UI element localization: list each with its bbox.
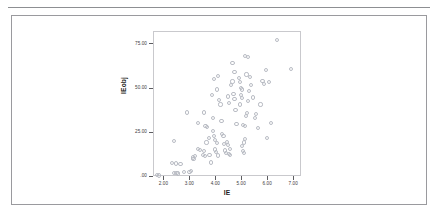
- data-point: [191, 157, 195, 161]
- data-point: [178, 162, 182, 166]
- x-axis-tick: [293, 176, 294, 180]
- data-point: [230, 79, 234, 83]
- data-point: [267, 80, 271, 84]
- data-point: [243, 137, 247, 141]
- x-axis-title: IE: [153, 189, 301, 196]
- data-point: [238, 102, 242, 106]
- data-point: [189, 169, 193, 173]
- data-point: [216, 74, 220, 78]
- data-point: [238, 80, 242, 84]
- data-point: [207, 153, 211, 157]
- data-point: [232, 97, 236, 101]
- data-points-layer: [154, 32, 300, 175]
- data-point: [215, 141, 219, 145]
- y-axis-title: IEobj: [120, 77, 127, 94]
- data-point: [242, 151, 246, 155]
- data-point: [228, 153, 232, 157]
- data-point: [249, 83, 253, 87]
- y-axis-tick: [149, 176, 153, 177]
- data-point: [230, 61, 234, 65]
- data-point: [218, 102, 222, 106]
- data-point: [172, 139, 176, 143]
- x-axis-tick-label: 4.00: [203, 181, 227, 186]
- data-point: [211, 116, 215, 120]
- data-point: [226, 94, 230, 98]
- data-point: [211, 129, 215, 133]
- x-axis-tick-label: 5.00: [229, 181, 253, 186]
- data-point: [232, 70, 236, 74]
- x-axis-tick-label: 2.00: [151, 181, 175, 186]
- x-axis-tick: [163, 176, 164, 180]
- x-axis-tick-label: 7.00: [281, 181, 305, 186]
- data-point: [248, 75, 252, 79]
- y-axis-tick-label: .00: [117, 173, 147, 178]
- plot-panel: [153, 31, 301, 176]
- data-point: [176, 171, 180, 175]
- x-axis-tick-label: 6.00: [255, 181, 279, 186]
- data-point: [221, 134, 225, 138]
- data-point: [245, 111, 249, 115]
- data-point: [231, 92, 235, 96]
- data-point: [247, 89, 251, 93]
- data-point: [216, 153, 220, 157]
- data-point: [185, 110, 189, 114]
- data-point: [262, 82, 266, 86]
- x-axis-tick: [241, 176, 242, 180]
- data-point: [209, 160, 213, 164]
- data-point: [253, 116, 257, 120]
- x-axis-tick-label: 3.00: [177, 181, 201, 186]
- y-axis-tick: [149, 88, 153, 89]
- data-point: [219, 119, 223, 123]
- data-point: [243, 124, 247, 128]
- data-point: [228, 147, 232, 151]
- x-axis-tick: [267, 176, 268, 180]
- data-point: [258, 102, 262, 106]
- data-point: [256, 126, 260, 130]
- y-axis-tick: [149, 132, 153, 133]
- data-point: [275, 38, 279, 42]
- data-point: [210, 93, 214, 97]
- data-point: [205, 125, 209, 129]
- y-axis-tick-label: 25.00: [117, 129, 147, 134]
- page-top-rule: [8, 7, 430, 8]
- data-point: [289, 67, 293, 71]
- y-axis-tick: [149, 43, 153, 44]
- data-point: [215, 87, 219, 91]
- data-point: [246, 55, 250, 59]
- figure-page: .0025.0050.0075.00 2.003.004.005.006.007…: [0, 0, 438, 218]
- data-point: [240, 87, 244, 91]
- data-point: [240, 96, 244, 100]
- scatter-chart: .0025.0050.0075.00 2.003.004.005.006.007…: [12, 16, 428, 206]
- data-point: [242, 140, 246, 144]
- figure-frame: .0025.0050.0075.00 2.003.004.005.006.007…: [11, 15, 427, 205]
- data-point: [202, 110, 206, 114]
- data-point: [203, 154, 207, 158]
- data-point: [269, 121, 273, 125]
- data-point: [265, 136, 269, 140]
- data-point: [182, 170, 186, 174]
- x-axis-tick: [215, 176, 216, 180]
- data-point: [196, 121, 200, 125]
- data-point: [246, 99, 250, 103]
- data-point: [233, 108, 237, 112]
- data-point: [204, 140, 208, 144]
- x-axis-tick: [189, 176, 190, 180]
- data-point: [234, 122, 238, 126]
- data-point: [264, 68, 268, 72]
- data-point: [227, 101, 231, 105]
- data-point: [254, 112, 258, 116]
- y-axis-tick-label: 75.00: [117, 41, 147, 46]
- data-point: [157, 173, 161, 177]
- data-point: [251, 95, 255, 99]
